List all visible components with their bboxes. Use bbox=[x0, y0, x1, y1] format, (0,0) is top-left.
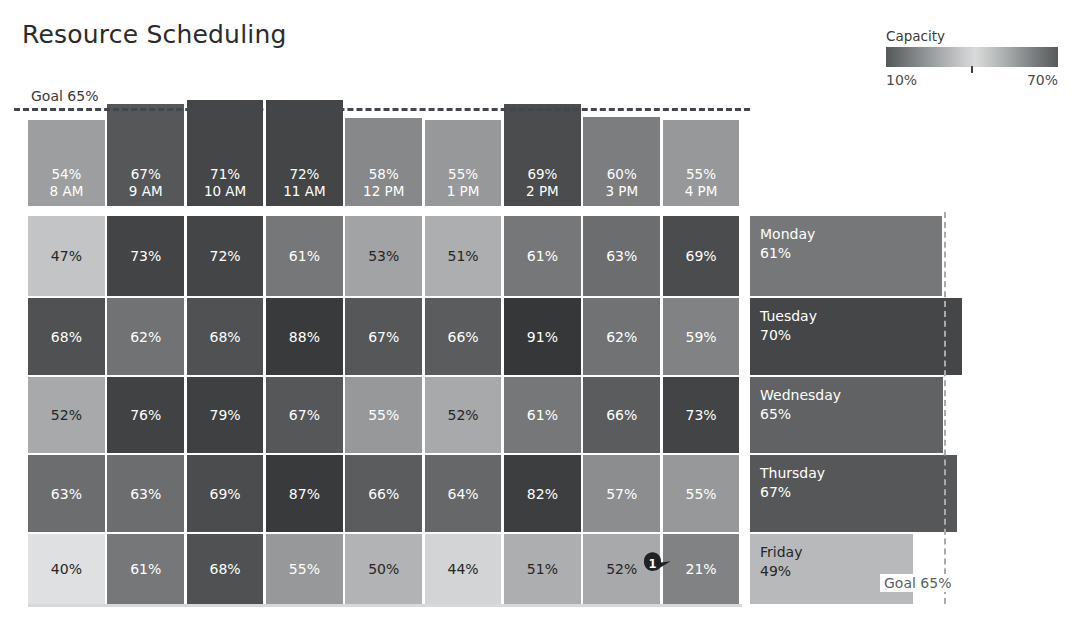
hourly-summary-bars: 54%8 AM67%9 AM71%10 AM72%11 AM58%12 PM55… bbox=[28, 96, 742, 206]
day-bar-name: Wednesday bbox=[760, 386, 943, 405]
heatmap-cell[interactable]: 61% bbox=[266, 216, 344, 296]
heatmap-cell[interactable]: 91% bbox=[504, 298, 582, 375]
hour-bar-value: 58% bbox=[369, 166, 399, 183]
heatmap-cell[interactable]: 40% bbox=[28, 534, 106, 604]
hour-bar-value: 54% bbox=[51, 166, 81, 183]
heatmap-cell[interactable]: 66% bbox=[425, 298, 503, 375]
capacity-heatmap-grid: 47%73%72%61%53%51%61%63%69%68%62%68%88%6… bbox=[28, 216, 742, 606]
heatmap-row-monday: 47%73%72%61%53%51%61%63%69% bbox=[28, 216, 742, 296]
goal-line-vertical bbox=[944, 212, 946, 604]
hour-bar-label: 11 AM bbox=[283, 183, 325, 200]
day-bar-value: 70% bbox=[760, 326, 962, 345]
heatmap-cell[interactable]: 82% bbox=[504, 455, 582, 532]
resource-scheduling-dashboard: Resource Scheduling Capacity 10% 70% 54%… bbox=[0, 0, 1077, 636]
heatmap-cell[interactable]: 68% bbox=[187, 298, 265, 375]
heatmap-cell[interactable]: 64% bbox=[425, 455, 503, 532]
heatmap-cell[interactable]: 55% bbox=[266, 534, 344, 604]
hour-bar-8-am[interactable]: 54%8 AM bbox=[28, 120, 106, 206]
heatmap-cell[interactable]: 73% bbox=[107, 216, 185, 296]
heatmap-cell[interactable]: 62% bbox=[107, 298, 185, 375]
heatmap-cell[interactable]: 63% bbox=[583, 216, 661, 296]
hour-bar-value: 55% bbox=[686, 166, 716, 183]
heatmap-cell[interactable]: 51% bbox=[425, 216, 503, 296]
heatmap-cell[interactable]: 69% bbox=[663, 216, 741, 296]
goal-line-horizontal bbox=[14, 108, 750, 111]
heatmap-cell[interactable]: 66% bbox=[345, 455, 423, 532]
heatmap-row-wednesday: 52%76%79%67%55%52%61%66%73% bbox=[28, 377, 742, 453]
hour-bar-label: 12 PM bbox=[363, 183, 404, 200]
heatmap-cell[interactable]: 61% bbox=[107, 534, 185, 604]
heatmap-row-tuesday: 68%62%68%88%67%66%91%62%59% bbox=[28, 298, 742, 375]
hour-bar-10-am[interactable]: 71%10 AM bbox=[187, 100, 265, 206]
heatmap-cell[interactable]: 57% bbox=[583, 455, 661, 532]
day-bar-name: Tuesday bbox=[760, 307, 962, 326]
heatmap-cell[interactable]: 62% bbox=[583, 298, 661, 375]
legend-max-label: 70% bbox=[1027, 72, 1058, 88]
hour-bar-12-pm[interactable]: 58%12 PM bbox=[345, 118, 423, 206]
heatmap-cell[interactable]: 53% bbox=[345, 216, 423, 296]
hour-bar-2-pm[interactable]: 69%2 PM bbox=[504, 104, 582, 206]
heatmap-cell[interactable]: 69% bbox=[187, 455, 265, 532]
heatmap-cell[interactable]: 55% bbox=[345, 377, 423, 453]
heatmap-cell[interactable]: 68% bbox=[28, 298, 106, 375]
day-bar-tuesday[interactable]: Tuesday70% bbox=[750, 298, 962, 375]
heatmap-cell[interactable]: 47% bbox=[28, 216, 106, 296]
day-bar-monday[interactable]: Monday61% bbox=[750, 216, 942, 296]
heatmap-cell[interactable]: 87% bbox=[266, 455, 344, 532]
heatmap-cell[interactable]: 61% bbox=[504, 216, 582, 296]
marker-label: 1 bbox=[643, 554, 662, 573]
hour-bar-label: 10 AM bbox=[204, 183, 246, 200]
heatmap-cell[interactable]: 52% bbox=[28, 377, 106, 453]
hour-bar-label: 1 PM bbox=[447, 183, 480, 200]
hour-bar-1-pm[interactable]: 55%1 PM bbox=[425, 120, 503, 206]
capacity-legend: Capacity 10% 70% bbox=[886, 28, 1058, 90]
day-bar-name: Monday bbox=[760, 225, 942, 244]
goal-label-top: Goal 65% bbox=[28, 88, 101, 104]
heatmap-cell[interactable]: 73% bbox=[663, 377, 741, 453]
day-bar-friday[interactable]: Friday49% bbox=[750, 534, 913, 604]
hour-bar-label: 4 PM bbox=[685, 183, 718, 200]
day-bar-value: 61% bbox=[760, 244, 942, 263]
goal-label-right: Goal 65% bbox=[880, 574, 955, 592]
heatmap-cell[interactable]: 44% bbox=[425, 534, 503, 604]
heatmap-cell[interactable]: 76% bbox=[107, 377, 185, 453]
hour-bar-label: 8 AM bbox=[50, 183, 84, 200]
legend-tick-icon bbox=[971, 66, 973, 73]
heatmap-cell[interactable]: 72% bbox=[187, 216, 265, 296]
hour-bar-4-pm[interactable]: 55%4 PM bbox=[663, 120, 741, 206]
day-bar-name: Thursday bbox=[760, 464, 957, 483]
grid-baseline bbox=[28, 604, 742, 607]
heatmap-cell[interactable]: 63% bbox=[107, 455, 185, 532]
heatmap-cell[interactable]: 67% bbox=[266, 377, 344, 453]
heatmap-cell[interactable]: 50% bbox=[345, 534, 423, 604]
day-bar-name: Friday bbox=[760, 543, 913, 562]
page-title: Resource Scheduling bbox=[22, 20, 287, 49]
hour-bar-value: 72% bbox=[289, 166, 319, 183]
heatmap-cell[interactable]: 59% bbox=[663, 298, 741, 375]
heatmap-cell[interactable]: 55% bbox=[663, 455, 741, 532]
map-pin-marker-icon[interactable]: 1 bbox=[637, 550, 681, 576]
legend-min-label: 10% bbox=[886, 72, 917, 88]
day-bar-value: 65% bbox=[760, 405, 943, 424]
heatmap-cell[interactable]: 63% bbox=[28, 455, 106, 532]
heatmap-cell[interactable]: 68% bbox=[187, 534, 265, 604]
heatmap-cell[interactable]: 88% bbox=[266, 298, 344, 375]
hour-bar-9-am[interactable]: 67%9 AM bbox=[107, 104, 185, 206]
day-bar-thursday[interactable]: Thursday67% bbox=[750, 455, 957, 532]
hour-bar-value: 71% bbox=[210, 166, 240, 183]
heatmap-cell[interactable]: 51% bbox=[504, 534, 582, 604]
daily-summary-bars: Monday61%Tuesday70%Wednesday65%Thursday6… bbox=[750, 216, 1077, 606]
heatmap-cell[interactable]: 52% bbox=[425, 377, 503, 453]
hour-bar-3-pm[interactable]: 60%3 PM bbox=[583, 117, 661, 206]
day-bar-wednesday[interactable]: Wednesday65% bbox=[750, 377, 943, 453]
hour-bar-11-am[interactable]: 72%11 AM bbox=[266, 100, 344, 206]
heatmap-cell[interactable]: 61% bbox=[504, 377, 582, 453]
legend-title: Capacity bbox=[886, 28, 945, 44]
heatmap-cell[interactable]: 67% bbox=[345, 298, 423, 375]
heatmap-cell[interactable]: 79% bbox=[187, 377, 265, 453]
heatmap-row-thursday: 63%63%69%87%66%64%82%57%55% bbox=[28, 455, 742, 532]
hour-bar-value: 69% bbox=[527, 166, 557, 183]
heatmap-cell[interactable]: 66% bbox=[583, 377, 661, 453]
hour-bar-value: 67% bbox=[131, 166, 161, 183]
hour-bar-value: 60% bbox=[607, 166, 637, 183]
